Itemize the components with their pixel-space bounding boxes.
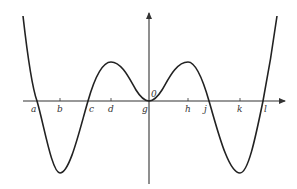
x-label-g: g bbox=[142, 104, 148, 114]
x-label-a: a bbox=[31, 104, 36, 114]
x-label-j: j bbox=[202, 104, 207, 114]
x-label-b: b bbox=[57, 104, 63, 114]
x-label-k: k bbox=[237, 104, 242, 114]
x-label-c: c bbox=[89, 104, 94, 114]
function-curve bbox=[23, 16, 277, 173]
x-label-l: l bbox=[264, 104, 267, 114]
function-graph: 0 a b c d g h j k l bbox=[0, 0, 297, 189]
origin-label: 0 bbox=[151, 89, 157, 99]
x-label-h: h bbox=[185, 104, 191, 114]
x-label-d: d bbox=[108, 104, 114, 114]
